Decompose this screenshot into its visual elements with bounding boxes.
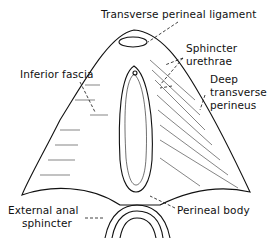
urethral-orifice xyxy=(133,71,137,75)
vaginal-orifice xyxy=(119,66,152,192)
label-perineal-body: Perineal body xyxy=(177,204,250,216)
label-deep-transverse-line3: perineus xyxy=(210,99,256,111)
label-transverse-perineal-ligament: Transverse perineal ligament xyxy=(101,8,256,20)
transverse-perineal-ligament-shape xyxy=(119,37,147,47)
label-deep-transverse-line1: Deep xyxy=(210,73,238,85)
label-external-anal-line1: External anal xyxy=(8,204,79,216)
label-sphincter-urethrae-line2: urethrae xyxy=(186,55,232,67)
label-inferior-fascia: Inferior fascia xyxy=(20,68,93,80)
label-deep-transverse-line2: transverse xyxy=(210,86,267,98)
anatomy-drawing xyxy=(0,0,273,238)
label-external-anal-line2: sphincter xyxy=(22,217,72,229)
diagram-canvas: Transverse perineal ligament Sphincter u… xyxy=(0,0,273,238)
label-sphincter-urethrae-line1: Sphincter xyxy=(186,42,237,54)
